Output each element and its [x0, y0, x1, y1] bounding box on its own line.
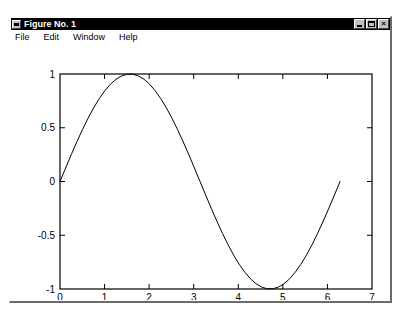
- title-bar[interactable]: Figure No. 1 ×: [11, 18, 390, 30]
- x-tick-label: 2: [146, 292, 152, 300]
- y-tick-label: 0: [49, 176, 55, 187]
- x-tick-label: 6: [325, 292, 331, 300]
- menu-item-edit[interactable]: Edit: [37, 32, 67, 43]
- minimize-button[interactable]: [354, 19, 365, 29]
- y-tick-label: 0.5: [41, 122, 55, 133]
- x-tick-label: 7: [369, 292, 375, 300]
- window-menu-icon[interactable]: [12, 20, 21, 29]
- figure-canvas[interactable]: 01234567-1-0.500.51: [11, 45, 390, 300]
- y-tick-label: 1: [49, 69, 55, 80]
- close-button[interactable]: ×: [378, 19, 389, 29]
- close-icon: ×: [379, 20, 388, 28]
- menu-item-file[interactable]: File: [11, 32, 37, 43]
- y-tick-label: -0.5: [38, 230, 56, 241]
- sine-plot: 01234567-1-0.500.51: [11, 45, 390, 300]
- menu-item-help[interactable]: Help: [112, 32, 145, 43]
- data-line-sin-x-: [60, 74, 340, 289]
- x-tick-label: 3: [191, 292, 197, 300]
- x-tick-label: 4: [236, 292, 242, 300]
- menu-item-window[interactable]: Window: [66, 32, 112, 43]
- menu-bar: File Edit Window Help: [11, 31, 390, 44]
- window-title: Figure No. 1: [24, 20, 354, 29]
- figure-window: Figure No. 1 × File Edit Window Help 012…: [9, 16, 392, 303]
- y-tick-label: -1: [46, 284, 55, 295]
- maximize-button[interactable]: [366, 19, 377, 29]
- x-tick-label: 5: [280, 292, 286, 300]
- plot-box: [60, 74, 372, 289]
- x-tick-label: 0: [57, 292, 63, 300]
- x-tick-label: 1: [102, 292, 108, 300]
